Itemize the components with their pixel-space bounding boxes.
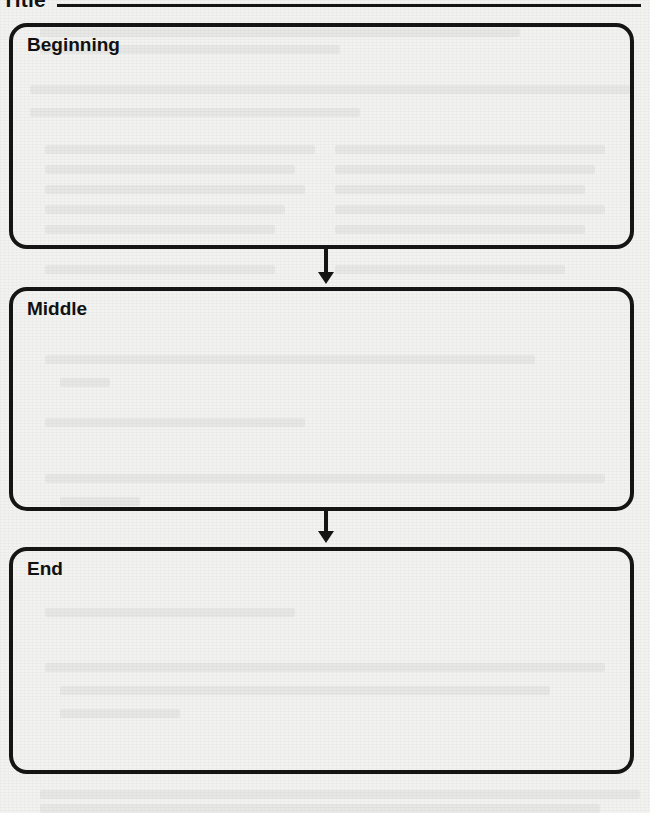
arrow-down-icon: [319, 511, 333, 545]
title-label: Title: [2, 0, 46, 11]
section-box-beginning[interactable]: Beginning: [9, 23, 634, 249]
arrow-down-icon: [319, 249, 333, 285]
arrow-shaft: [324, 511, 328, 533]
arrow-head: [318, 272, 334, 284]
section-heading-middle: Middle: [27, 298, 87, 320]
title-write-line[interactable]: [57, 4, 641, 7]
arrow-head: [318, 531, 334, 543]
section-box-middle[interactable]: Middle: [9, 287, 634, 511]
section-heading-end: End: [27, 558, 63, 580]
title-row: Title: [0, 0, 650, 11]
section-box-end[interactable]: End: [9, 547, 634, 774]
section-heading-beginning: Beginning: [27, 34, 120, 56]
